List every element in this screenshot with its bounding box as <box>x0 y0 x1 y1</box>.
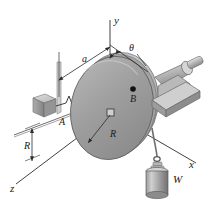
dimension-label-a: a <box>82 53 87 64</box>
point-b-marker <box>130 86 136 92</box>
weight-bottom-cap <box>146 191 168 198</box>
angle-label-theta: θ <box>129 42 134 53</box>
point-label-b: B <box>130 93 136 104</box>
point-b-marker-group <box>130 86 136 92</box>
support-block <box>33 62 61 117</box>
dimension-label-r-radial: R <box>109 128 116 139</box>
figure-container: y x z θ a R R A B W <box>0 0 210 205</box>
cord-assembly <box>152 128 157 156</box>
weight-hook-ring <box>154 157 160 162</box>
hanging-weight <box>146 157 168 199</box>
weight-hook-neck <box>153 162 162 166</box>
axis-label-x: x <box>188 158 194 170</box>
dim-r-ext-bottom <box>25 155 40 161</box>
dimension-label-r-vertical: R <box>23 140 30 151</box>
point-label-a: A <box>58 116 66 127</box>
weight-label-w: W <box>173 173 183 185</box>
axis-label-y: y <box>113 14 119 26</box>
bearing-stub-shaft <box>186 55 204 69</box>
disk-center-hub <box>107 109 114 116</box>
axis-label-z: z <box>9 182 15 194</box>
bearing-block <box>152 55 204 117</box>
cord-line <box>152 128 157 156</box>
mechanics-diagram: y x z θ a R R A B W <box>0 0 210 205</box>
